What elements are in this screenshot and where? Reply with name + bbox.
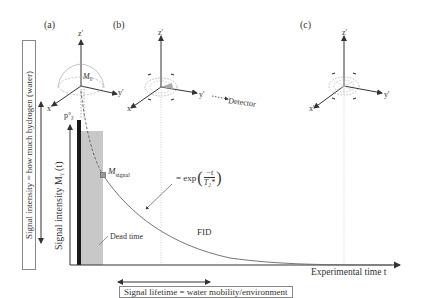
fid-curve [103, 175, 392, 265]
z-label-c: z' [342, 28, 347, 37]
pulse-label: p°ᵪ [64, 111, 73, 120]
y-axis-c [344, 86, 382, 93]
dead-time-region [81, 131, 103, 265]
m0-label: M₀ [83, 72, 92, 81]
dead-time-label: Dead time [110, 232, 143, 241]
y-label-a: y' [118, 88, 123, 97]
z-label-a: z' [78, 29, 83, 38]
panel-c-axes [314, 36, 382, 265]
pulse-bar [77, 120, 81, 265]
y-axis-label: Signal intensity Mᵧ (t) [53, 140, 64, 250]
z-label-b: z' [158, 28, 163, 37]
y-axis-b [161, 87, 197, 93]
signal-intensity-box: Signal intensity = how much hydrogen (wa… [22, 40, 36, 270]
y-label-b: y' [199, 90, 204, 99]
panel-b-axes [131, 36, 228, 265]
x-label-c: x' [309, 104, 314, 113]
x-axis-c [314, 86, 344, 108]
panel-label-b: (b) [113, 19, 125, 30]
y-label-c: y' [384, 90, 389, 99]
y-axis-a [81, 86, 117, 94]
x-label-a: x' [47, 104, 52, 113]
x-label-b: x' [127, 104, 132, 113]
decay-equation: = exp ( −t T₂* ) [176, 168, 222, 187]
m-signal-marker [101, 173, 106, 178]
m-signal-label: Msignal [108, 166, 130, 178]
x-axis-label: Experimental time t [311, 267, 386, 277]
signal-lifetime-box: Signal lifetime = water mobility/environ… [119, 286, 293, 298]
panel-label-a: (a) [44, 19, 55, 30]
x-axis-a [52, 86, 81, 106]
fid-label: FID [197, 227, 212, 237]
panel-label-c: (c) [300, 19, 311, 30]
